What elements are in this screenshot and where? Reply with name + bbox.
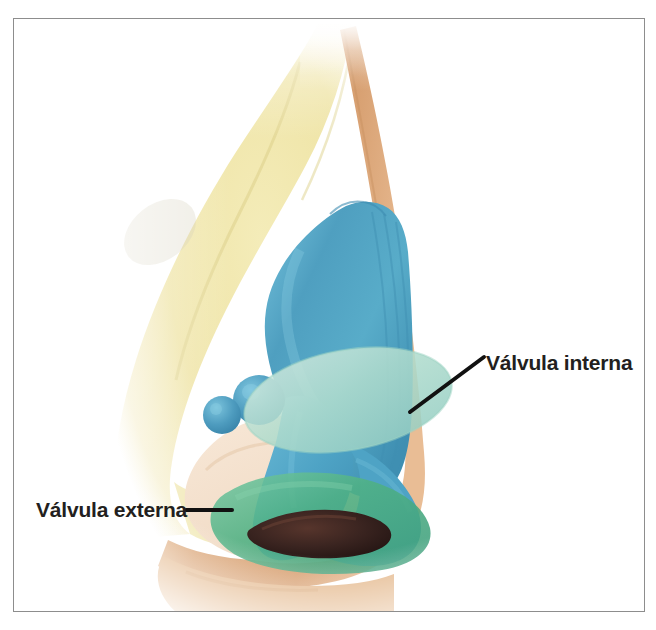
label-valvula-interna: Válvula interna <box>486 351 632 375</box>
nasal-anatomy-illustration <box>0 0 656 630</box>
label-valvula-externa: Válvula externa <box>36 498 187 522</box>
nasal-valve-figure: Válvula interna Válvula externa <box>0 0 656 630</box>
